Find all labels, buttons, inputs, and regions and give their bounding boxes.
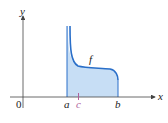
- x-axis-label: x: [157, 90, 163, 102]
- y-axis-label: y: [19, 5, 25, 17]
- a-label: a: [64, 98, 70, 110]
- function-label: f: [89, 53, 94, 65]
- c-label: c: [76, 98, 81, 110]
- graph: y x 0 a c b f: [0, 0, 168, 123]
- diagram: y x 0 a c b f: [0, 0, 168, 123]
- b-label: b: [115, 98, 121, 110]
- origin-label: 0: [16, 98, 22, 110]
